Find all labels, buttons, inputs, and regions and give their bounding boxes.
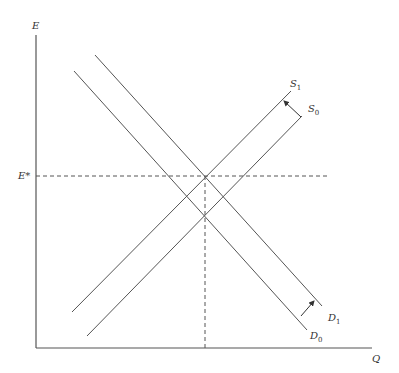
d1-label: D1 [328, 313, 341, 326]
d0-label: D0 [310, 331, 323, 344]
s1-label: S1 [290, 79, 301, 92]
equilibrium-price-label: E* [18, 171, 30, 181]
s0-label: S0 [308, 104, 319, 117]
demand-curve-d1 [95, 55, 322, 306]
x-axis-label: Q [372, 354, 380, 364]
y-axis-label: E [32, 21, 39, 31]
supply-curve-s1 [72, 91, 291, 312]
supply-curve-s0 [87, 116, 302, 336]
demand-shift-arrow [301, 301, 314, 316]
supply-shift-arrow [284, 101, 301, 117]
